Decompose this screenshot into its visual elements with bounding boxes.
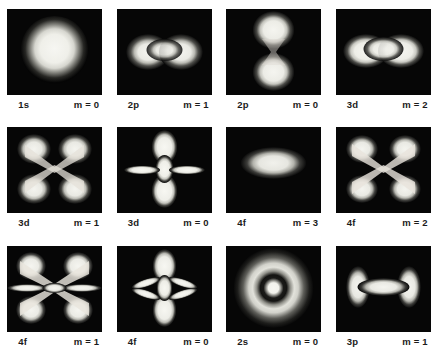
orbital-label: 4f [7, 336, 27, 347]
orbital-image-2p-m1 [117, 9, 212, 95]
orbital-label: 2s [226, 336, 248, 347]
magnetic-quantum-number-label: m = 0 [183, 336, 212, 347]
magnetic-quantum-number-label: m = 0 [293, 99, 322, 110]
magnetic-quantum-number-label: m = 0 [293, 336, 322, 347]
orbital-panel: 3d m = 0 [110, 118, 220, 236]
orbital-image-3d-m1 [7, 127, 102, 213]
orbital-panel: 4f m = 2 [329, 118, 438, 236]
orbital-panel-grid: 1s m = 0 [0, 0, 438, 355]
panel-caption: 4f m = 1 [7, 336, 102, 347]
orbital-label: 3d [7, 217, 30, 228]
panel-caption: 3d m = 1 [7, 217, 102, 228]
panel-caption: 3p m = 1 [336, 336, 431, 347]
orbital-image-4f-m1 [7, 246, 102, 332]
magnetic-quantum-number-label: m = 2 [402, 99, 431, 110]
orbital-image-3d-m2 [336, 9, 431, 95]
orbital-label: 2p [117, 99, 140, 110]
panel-caption: 2p m = 0 [226, 99, 321, 110]
magnetic-quantum-number-label: m = 0 [183, 217, 212, 228]
magnetic-quantum-number-label: m = 1 [402, 336, 431, 347]
magnetic-quantum-number-label: m = 1 [183, 99, 212, 110]
orbital-image-4f-m2 [336, 127, 431, 213]
orbital-panel: 4f m = 3 [219, 118, 329, 236]
orbital-image-4f-m3 [226, 127, 321, 213]
orbital-label: 4f [117, 336, 137, 347]
orbital-panel: 2p m = 1 [110, 0, 220, 118]
magnetic-quantum-number-label: m = 3 [293, 217, 322, 228]
orbital-image-2s-m0 [226, 246, 321, 332]
orbital-panel: 4f m = 0 [110, 237, 220, 355]
orbital-panel: 3p m = 1 [329, 237, 438, 355]
panel-caption: 4f m = 0 [117, 336, 212, 347]
orbital-image-3p-m1 [336, 246, 431, 332]
orbital-panel: 1s m = 0 [0, 0, 110, 118]
orbital-image-2p-m0 [226, 9, 321, 95]
panel-caption: 2s m = 0 [226, 336, 321, 347]
orbital-panel: 3d m = 2 [329, 0, 438, 118]
magnetic-quantum-number-label: m = 1 [74, 217, 103, 228]
orbital-panel: 2p m = 0 [219, 0, 329, 118]
orbital-label: 2p [226, 99, 249, 110]
orbital-label: 3d [117, 217, 140, 228]
orbital-image-1s-m0 [7, 9, 102, 95]
magnetic-quantum-number-label: m = 1 [74, 336, 103, 347]
panel-caption: 3d m = 2 [336, 99, 431, 110]
panel-caption: 3d m = 0 [117, 217, 212, 228]
orbital-label: 1s [7, 99, 29, 110]
panel-caption: 1s m = 0 [7, 99, 102, 110]
panel-caption: 4f m = 2 [336, 217, 431, 228]
orbital-label: 3p [336, 336, 359, 347]
orbital-panel: 2s m = 0 [219, 237, 329, 355]
orbital-label: 4f [336, 217, 356, 228]
orbital-label: 3d [336, 99, 359, 110]
panel-caption: 2p m = 1 [117, 99, 212, 110]
hydrogen-orbital-plate: 1s m = 0 [0, 0, 438, 355]
orbital-image-4f-m0 [117, 246, 212, 332]
orbital-panel: 3d m = 1 [0, 118, 110, 236]
orbital-image-3d-m0 [117, 127, 212, 213]
orbital-panel: 4f m = 1 [0, 237, 110, 355]
orbital-label: 4f [226, 217, 246, 228]
panel-caption: 4f m = 3 [226, 217, 321, 228]
magnetic-quantum-number-label: m = 0 [74, 99, 103, 110]
magnetic-quantum-number-label: m = 2 [402, 217, 431, 228]
